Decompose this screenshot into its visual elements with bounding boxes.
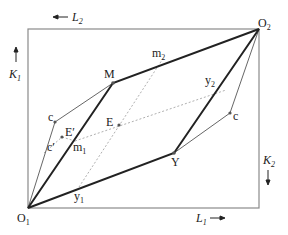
- label-c-right: c: [233, 109, 238, 123]
- dotted-y1-m2: [79, 57, 164, 187]
- path-O1-M-O2: [28, 29, 259, 208]
- label-c-prime: c′: [47, 140, 55, 154]
- label-O2: O2: [258, 16, 271, 32]
- point-M: [111, 81, 115, 85]
- point-c-left: [53, 120, 56, 123]
- point-c-right: [228, 111, 231, 114]
- dotted-m1-y2: [75, 90, 226, 141]
- label-y1: y1: [74, 189, 84, 205]
- label-m1: m1: [73, 140, 86, 156]
- label-M: M: [104, 67, 115, 81]
- label-K1: K1: [8, 67, 21, 83]
- label-c-left: c: [48, 110, 53, 124]
- label-Y: Y: [171, 155, 180, 169]
- label-y2: y2: [205, 73, 215, 89]
- label-K2: K2: [262, 153, 275, 169]
- label-E-prime: E′: [65, 125, 75, 139]
- box-frame: [28, 29, 259, 208]
- thick-lines: [28, 29, 259, 208]
- edgeworth-box-diagram: L2 K1 K2 L1 O1 O2 M Y E E′ c c′ c m1 m2 …: [0, 0, 288, 235]
- path-O1-Y-O2: [28, 29, 259, 208]
- label-E: E: [106, 115, 113, 129]
- label-m2: m2: [152, 46, 165, 62]
- thin-lines: [28, 29, 259, 208]
- point-E-prime: [60, 135, 63, 138]
- point-E: [117, 123, 120, 126]
- label-O1: O1: [17, 211, 30, 227]
- label-L2: L2: [71, 10, 83, 26]
- label-L1: L1: [195, 211, 207, 227]
